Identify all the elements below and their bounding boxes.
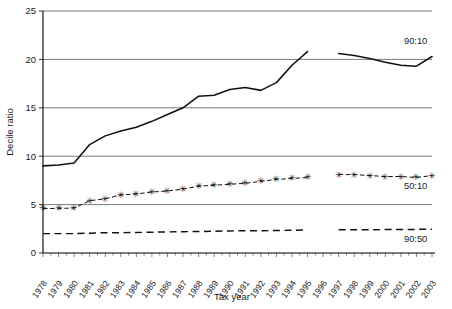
series-marker-50-10: ✳	[335, 170, 343, 180]
series-marker-50-10: ✳	[117, 190, 125, 200]
x-tick-label-1993: 1993	[263, 278, 282, 300]
series-marker-50-10: ✳	[241, 178, 249, 188]
series-line-90-50	[339, 229, 432, 230]
series-line-90-50	[43, 230, 308, 234]
x-tick-label-1999: 1999	[357, 278, 376, 300]
y-tick-label-25: 25	[25, 5, 36, 16]
series-label-90-10: 90:10	[404, 36, 427, 46]
x-tick-label-1996: 1996	[310, 278, 329, 300]
series-paths-group	[43, 52, 432, 234]
x-tick-label-1982: 1982	[92, 278, 111, 300]
series-line-90-10	[43, 52, 308, 166]
series-label-90-50: 90:50	[404, 234, 427, 244]
x-tick-label-1980: 1980	[61, 278, 80, 300]
series-marker-50-10: ✳	[179, 184, 187, 194]
y-tick-label-20: 20	[25, 54, 36, 65]
x-tick-label-2001: 2001	[388, 278, 407, 300]
x-tick-label-1987: 1987	[170, 278, 189, 300]
series-marker-50-10: ✳	[288, 173, 296, 183]
x-tick-label-1986: 1986	[154, 278, 173, 300]
y-tick-label-5: 5	[31, 199, 36, 210]
y-tick-label-15: 15	[25, 102, 36, 113]
series-marker-50-10: ✳	[86, 196, 94, 206]
series-marker-50-10: ✳	[381, 172, 389, 182]
y-axis-ticks-group: 0510152025	[25, 5, 43, 258]
x-tick-label-1979: 1979	[46, 278, 65, 300]
x-tick-label-2000: 2000	[372, 278, 391, 300]
series-marker-50-10: ✳	[210, 180, 218, 190]
series-marker-50-10: ✳	[39, 203, 47, 213]
x-tick-label-1998: 1998	[341, 278, 360, 300]
y-tick-label-0: 0	[31, 247, 36, 258]
x-tick-label-1981: 1981	[77, 278, 96, 300]
y-axis-title: Decile ratio	[4, 108, 15, 156]
x-tick-label-1978: 1978	[30, 278, 49, 300]
chart-canvas: 0510152025 19781979198019811982198319841…	[0, 0, 452, 309]
series-labels-group: 90:1050:1090:50	[404, 36, 427, 244]
series-marker-50-10: ✳	[163, 186, 171, 196]
series-line-50-10	[43, 178, 308, 209]
x-tick-label-2002: 2002	[403, 278, 422, 300]
series-marker-50-10: ✳	[257, 176, 265, 186]
series-marker-50-10: ✳	[350, 170, 358, 180]
series-marker-50-10: ✳	[272, 174, 280, 184]
series-marker-50-10: ✳	[132, 189, 140, 199]
x-tick-label-1992: 1992	[248, 278, 267, 300]
decile-ratio-chart: 0510152025 19781979198019811982198319841…	[0, 0, 452, 309]
series-marker-50-10: ✳	[70, 203, 78, 213]
series-marker-50-10: ✳	[148, 187, 156, 197]
x-axis-title: Tax year	[214, 291, 250, 302]
x-tick-label-1983: 1983	[108, 278, 127, 300]
series-marker-50-10: ✳	[366, 171, 374, 181]
x-tick-label-1997: 1997	[326, 278, 345, 300]
series-label-50-10: 50:10	[404, 181, 427, 191]
y-tick-label-10: 10	[25, 151, 36, 162]
series-marker-50-10: ✳	[101, 194, 109, 204]
x-tick-label-1994: 1994	[279, 278, 298, 300]
x-tick-label-2003: 2003	[419, 278, 438, 300]
x-tick-label-1995: 1995	[294, 278, 313, 300]
x-tick-label-1988: 1988	[186, 278, 205, 300]
series-marker-50-10: ✳	[195, 181, 203, 191]
x-tick-label-1985: 1985	[139, 278, 158, 300]
series-marker-50-10: ✳	[55, 203, 63, 213]
series-line-90-10	[339, 54, 432, 67]
x-tick-label-1984: 1984	[123, 278, 142, 300]
series-marker-50-10: ✳	[226, 179, 234, 189]
series-marker-50-10: ✳	[304, 172, 312, 182]
series-marker-50-10: ✳	[428, 171, 436, 181]
